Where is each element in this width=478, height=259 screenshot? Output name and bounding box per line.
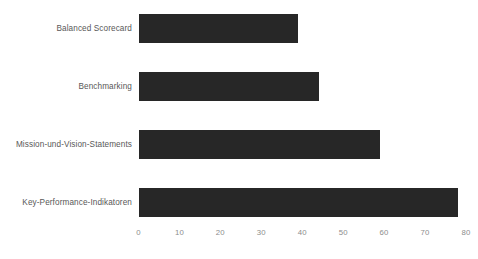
category-label-benchmarking: Benchmarking — [78, 72, 132, 102]
bar-benchmarking — [139, 72, 319, 101]
x-tick-label-10: 10 — [175, 228, 184, 237]
plot-area: Balanced Scorecard Benchmarking Mission-… — [0, 0, 478, 259]
bar-key-performance-indikatoren — [139, 188, 458, 217]
bar-mission-und-vision-statements — [139, 130, 381, 159]
bar-row: Key-Performance-Indikatoren — [0, 188, 478, 218]
x-tick-label-30: 30 — [257, 228, 266, 237]
x-axis: 0 10 20 30 40 50 60 70 80 — [0, 228, 478, 248]
x-tick-label-50: 50 — [339, 228, 348, 237]
x-tick-label-40: 40 — [298, 228, 307, 237]
bar-row: Mission-und-Vision-Statements — [0, 130, 478, 160]
bar-chart: Balanced Scorecard Benchmarking Mission-… — [0, 0, 478, 259]
category-label-balanced-scorecard: Balanced Scorecard — [56, 14, 132, 44]
x-tick-label-70: 70 — [421, 228, 430, 237]
bar-row: Balanced Scorecard — [0, 14, 478, 44]
bar-balanced-scorecard — [139, 14, 299, 43]
x-tick-label-80: 80 — [461, 228, 470, 237]
x-tick-label-20: 20 — [216, 228, 225, 237]
category-label-mission-und-vision-statements: Mission-und-Vision-Statements — [16, 130, 132, 160]
x-tick-label-0: 0 — [136, 228, 141, 237]
bar-row: Benchmarking — [0, 72, 478, 102]
category-label-key-performance-indikatoren: Key-Performance-Indikatoren — [22, 188, 132, 218]
x-tick-label-60: 60 — [380, 228, 389, 237]
